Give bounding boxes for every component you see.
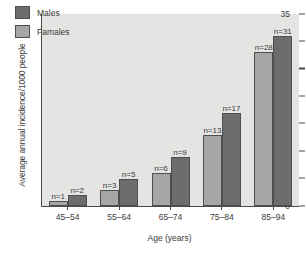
bar-value-label: n=1 (51, 192, 65, 201)
bar-value-label: n=13 (203, 126, 221, 135)
bar-value-label: n=28 (255, 43, 273, 52)
legend-item-males[interactable]: Males (15, 6, 70, 19)
bar-slot: n=3 (100, 14, 119, 206)
bar-value-label: n=2 (70, 186, 84, 195)
x-axis-tick-label: 75–84 (210, 212, 234, 222)
y-axis-tick-mark (299, 178, 305, 179)
y-axis-title: Average annual incidence/1000 people (17, 15, 27, 215)
bar-group: n=3n=5 (100, 14, 138, 206)
x-axis-tick-mark (170, 206, 171, 210)
x-axis-tick-mark (119, 206, 120, 210)
bar-males[interactable]: n=31 (273, 36, 292, 206)
bar-slot: n=31 (273, 14, 292, 206)
bars-layer: n=1n=2n=3n=5n=6n=9n=13n=17n=28n=31 (42, 14, 299, 206)
bar-value-label: n=17 (222, 104, 240, 113)
y-axis-tick-mark (299, 95, 305, 96)
bar-group: n=6n=9 (152, 14, 190, 206)
y-axis-tick-mark (299, 205, 305, 206)
bar-value-label: n=6 (154, 164, 168, 173)
x-axis-tick-label: 65–74 (159, 212, 183, 222)
legend-swatch-icon (15, 6, 30, 19)
bar-females[interactable]: n=1 (49, 201, 68, 206)
bar-chart-figure: Average annual incidence/1000 people 051… (0, 0, 306, 257)
x-axis-tick-mark (221, 206, 222, 210)
bar-males[interactable]: n=9 (171, 157, 190, 206)
legend-item-label: Males (37, 8, 60, 18)
x-axis-tick-mark (67, 206, 68, 210)
bar-females[interactable]: n=13 (203, 135, 222, 206)
bar-males[interactable]: n=17 (222, 113, 241, 206)
bar-group: n=28n=31 (254, 14, 292, 206)
bar-value-label: n=9 (173, 148, 187, 157)
bar-males[interactable]: n=2 (68, 195, 87, 206)
bar-slot: n=17 (222, 14, 241, 206)
bar-slot: n=6 (152, 14, 171, 206)
x-axis-tick-label: 55–64 (107, 212, 131, 222)
x-axis-tick-label: 85–94 (261, 212, 285, 222)
bar-value-label: n=5 (122, 170, 136, 179)
bar-females[interactable]: n=3 (100, 190, 119, 206)
bar-females[interactable]: n=6 (152, 173, 171, 206)
x-axis-title: Age (years) (41, 233, 298, 243)
y-axis-tick-mark (299, 123, 305, 124)
chart-legend: MalesFamales (15, 6, 70, 44)
plot-area: 05101520253035 n=1n=2n=3n=5n=6n=9n=13n=1… (41, 14, 299, 207)
x-axis-tick-label: 45–54 (56, 212, 80, 222)
bar-males[interactable]: n=5 (119, 179, 138, 206)
x-axis-tick-mark (273, 206, 274, 210)
bar-slot: n=9 (171, 14, 190, 206)
y-axis-tick-mark (299, 13, 305, 14)
y-axis-tick-mark (299, 68, 305, 69)
bar-slot: n=2 (68, 14, 87, 206)
y-axis-tick-mark (299, 40, 305, 41)
bar-slot: n=5 (119, 14, 138, 206)
bar-group: n=13n=17 (203, 14, 241, 206)
legend-item-label: Famales (37, 27, 70, 37)
bar-females[interactable]: n=28 (254, 52, 273, 206)
bar-value-label: n=31 (274, 27, 292, 36)
bar-slot: n=13 (203, 14, 222, 206)
y-axis-tick-mark (299, 150, 305, 151)
bar-value-label: n=3 (103, 181, 117, 190)
legend-swatch-icon (15, 25, 30, 38)
legend-item-females[interactable]: Famales (15, 25, 70, 38)
bar-slot: n=28 (254, 14, 273, 206)
